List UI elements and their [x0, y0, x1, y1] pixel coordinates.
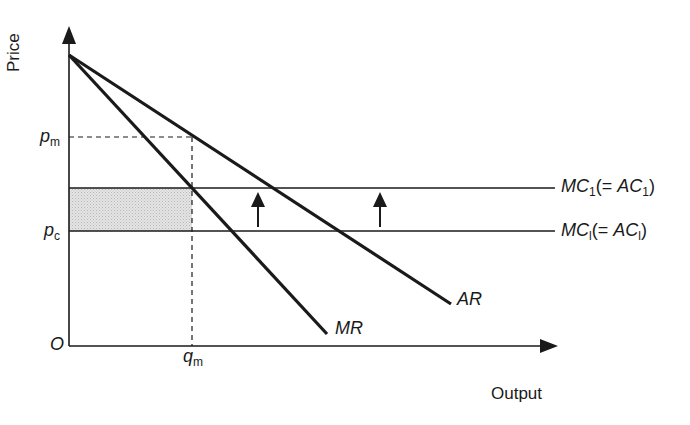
arrow-up-icon [251, 192, 265, 207]
pm-main: p [40, 126, 50, 146]
mc1-paren-open: (= [596, 176, 618, 196]
y-axis-arrow-icon [62, 26, 76, 44]
x-axis-label: Output [491, 384, 542, 404]
ar-label: AR [457, 289, 482, 310]
qm-main: q [183, 346, 193, 366]
ac1-sub: 1 [642, 185, 649, 199]
ar-curve [69, 55, 451, 304]
mc1-label: MC1(= AC1) [561, 176, 655, 199]
qm-sub: m [193, 355, 203, 369]
ac1-main: AC [617, 176, 642, 196]
pm-label: pm [40, 126, 60, 149]
mr-label: MR [335, 318, 363, 339]
arrow-up-icon [373, 192, 387, 207]
mc1-main: MC [561, 176, 589, 196]
pc-label: pc [44, 220, 60, 243]
x-axis-arrow-icon [540, 339, 558, 353]
mc0-paren-close: ) [641, 220, 647, 240]
mc0-label: MCl(= ACl) [561, 220, 647, 243]
pc-sub: c [54, 229, 60, 243]
origin-label: O [50, 334, 64, 355]
pm-sub: m [50, 135, 60, 149]
economics-diagram [0, 0, 690, 425]
pc-main: p [44, 220, 54, 240]
mc1-sub: 1 [589, 185, 596, 199]
mc0-main: MC [561, 220, 589, 240]
shaded-area [69, 188, 192, 231]
ac0-main: AC [613, 220, 638, 240]
y-axis-label: Price [4, 33, 24, 72]
mc0-paren-open: (= [592, 220, 614, 240]
qm-label: qm [183, 346, 203, 369]
mc1-paren-close: ) [649, 176, 655, 196]
